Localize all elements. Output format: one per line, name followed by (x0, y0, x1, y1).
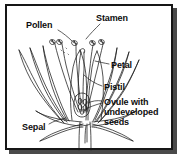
leader-line-petal (95, 61, 109, 64)
flower-diagram-figure: Pollen Stamen Petal Pistil Ovule with un… (0, 0, 180, 157)
petal-left-mid (30, 48, 67, 122)
label-stamen: Stamen (96, 13, 128, 23)
label-pollen: Pollen (26, 20, 52, 30)
pollen-specks (61, 48, 69, 55)
petal-left-inner (43, 46, 69, 121)
label-ovule: Ovule with undeveloped seeds (104, 97, 158, 127)
label-pistil: Pistil (104, 82, 125, 92)
leader-line-stamen (86, 24, 100, 39)
stamen-anthers (50, 40, 105, 46)
label-sepal: Sepal (22, 122, 46, 132)
leader-line-pollen (58, 30, 72, 41)
pistil-style (78, 49, 85, 104)
label-petal: Petal (111, 60, 132, 70)
petal-left-outer (19, 50, 64, 123)
